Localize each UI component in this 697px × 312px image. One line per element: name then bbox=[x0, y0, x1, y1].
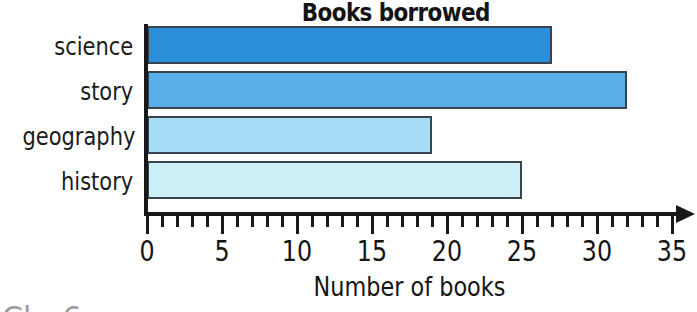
chart-title: Books borrowed bbox=[49, 0, 648, 27]
minor-tick-3 bbox=[191, 216, 194, 227]
y-axis-line bbox=[144, 24, 148, 216]
page-bleed-text: Cl-- 6 bbox=[2, 300, 82, 312]
minor-tick-12 bbox=[326, 216, 329, 227]
minor-tick-24 bbox=[506, 216, 509, 227]
minor-tick-8 bbox=[266, 216, 269, 227]
minor-tick-1 bbox=[161, 216, 164, 227]
minor-tick-2 bbox=[176, 216, 179, 227]
minor-tick-34 bbox=[656, 216, 659, 227]
bar-story[interactable] bbox=[147, 71, 627, 109]
x-tick-label-30: 30 bbox=[577, 236, 618, 266]
plot-area bbox=[147, 24, 697, 210]
minor-tick-21 bbox=[461, 216, 464, 227]
major-tick-25 bbox=[521, 216, 524, 234]
chart-figure: Books borrowed sciencestorygeographyhist… bbox=[0, 0, 697, 312]
x-tick-label-25: 25 bbox=[502, 236, 543, 266]
category-label-geography: geography bbox=[22, 114, 140, 159]
minor-tick-11 bbox=[311, 216, 314, 227]
bar-geography[interactable] bbox=[147, 116, 432, 154]
major-tick-35 bbox=[671, 216, 674, 234]
minor-tick-28 bbox=[566, 216, 569, 227]
category-label-story: story bbox=[22, 69, 140, 114]
minor-tick-16 bbox=[386, 216, 389, 227]
minor-tick-19 bbox=[431, 216, 434, 227]
minor-tick-7 bbox=[251, 216, 254, 227]
category-label-history: history bbox=[22, 159, 140, 204]
minor-tick-6 bbox=[236, 216, 239, 227]
minor-tick-27 bbox=[551, 216, 554, 227]
minor-tick-23 bbox=[491, 216, 494, 227]
category-label-science: science bbox=[22, 24, 140, 69]
major-tick-0 bbox=[146, 216, 149, 234]
x-axis-arrow-icon bbox=[676, 205, 695, 223]
major-tick-30 bbox=[596, 216, 599, 234]
minor-tick-22 bbox=[476, 216, 479, 227]
bar-history[interactable] bbox=[147, 161, 522, 199]
bar-row bbox=[147, 114, 697, 159]
minor-tick-4 bbox=[206, 216, 209, 227]
x-tick-label-35: 35 bbox=[652, 236, 693, 266]
minor-tick-29 bbox=[581, 216, 584, 227]
bar-science[interactable] bbox=[147, 26, 552, 64]
x-axis-title: Number of books bbox=[184, 272, 636, 302]
major-tick-5 bbox=[221, 216, 224, 234]
minor-tick-17 bbox=[401, 216, 404, 227]
minor-tick-33 bbox=[641, 216, 644, 227]
x-tick-label-0: 0 bbox=[127, 236, 168, 266]
minor-tick-31 bbox=[611, 216, 614, 227]
bar-row bbox=[147, 159, 697, 204]
major-tick-15 bbox=[371, 216, 374, 234]
x-tick-label-5: 5 bbox=[202, 236, 243, 266]
minor-tick-9 bbox=[281, 216, 284, 227]
x-tick-label-10: 10 bbox=[277, 236, 318, 266]
minor-tick-14 bbox=[356, 216, 359, 227]
category-axis-labels: sciencestorygeographyhistory bbox=[0, 24, 140, 204]
bar-row bbox=[147, 69, 697, 114]
x-axis-line bbox=[144, 212, 680, 216]
minor-tick-13 bbox=[341, 216, 344, 227]
major-tick-10 bbox=[296, 216, 299, 234]
minor-tick-18 bbox=[416, 216, 419, 227]
x-tick-label-20: 20 bbox=[427, 236, 468, 266]
minor-tick-32 bbox=[626, 216, 629, 227]
x-tick-label-15: 15 bbox=[352, 236, 393, 266]
minor-tick-26 bbox=[536, 216, 539, 227]
bar-row bbox=[147, 24, 697, 69]
major-tick-20 bbox=[446, 216, 449, 234]
